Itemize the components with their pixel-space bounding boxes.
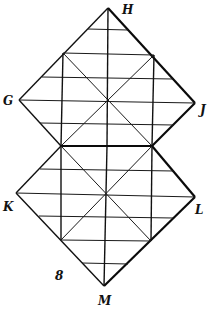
edge-l-m xyxy=(104,197,195,286)
label-g: G xyxy=(3,94,13,108)
label-k: K xyxy=(2,200,14,214)
label-h: H xyxy=(121,3,134,17)
diagram-canvas: H G J K L M 8 xyxy=(0,0,212,311)
v-line-right xyxy=(152,55,154,146)
edge-upper-l xyxy=(152,146,195,197)
h-line xyxy=(63,53,154,55)
label-j: J xyxy=(198,103,207,117)
h-line xyxy=(61,240,151,241)
v-line-right xyxy=(151,146,152,241)
v-line-center xyxy=(107,8,108,146)
lower-shape xyxy=(16,146,195,286)
v-line-center xyxy=(104,146,107,286)
upper-shape xyxy=(19,8,195,146)
v-line-left xyxy=(61,53,63,146)
label-l: L xyxy=(194,203,203,217)
edge-h-j xyxy=(108,8,195,103)
label-m: M xyxy=(97,294,112,308)
label-number: 8 xyxy=(55,269,64,283)
